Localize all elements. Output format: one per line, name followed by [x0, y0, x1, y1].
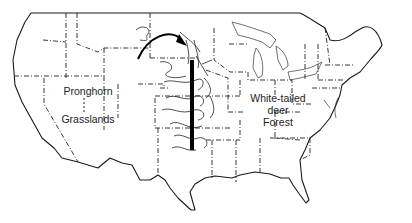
pronghorn-grasslands-label: Pronghorn Grasslands	[58, 85, 118, 125]
label-line: Forest	[238, 116, 318, 128]
label-line: Pronghorn	[58, 85, 118, 97]
label-line: deer	[238, 104, 318, 116]
white-tailed-deer-forest-label: White-tailed deer Forest	[238, 92, 318, 128]
label-line: Grasslands	[58, 113, 118, 125]
migration-arrow	[138, 34, 182, 59]
label-line: White-tailed	[238, 92, 318, 104]
great-lakes	[232, 22, 322, 80]
